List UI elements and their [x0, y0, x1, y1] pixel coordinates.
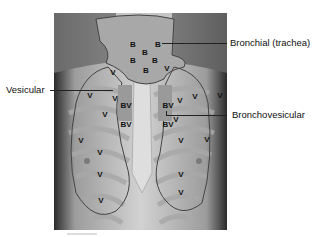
bronchial-label: Bronchial (trachea) [230, 38, 310, 48]
zone-marker-b: B [142, 49, 148, 57]
zone-marker-v: V [164, 65, 169, 73]
zone-marker-b: B [130, 41, 136, 49]
zone-marker-v: V [217, 92, 222, 100]
vesicular-leader-line [50, 90, 113, 91]
zone-marker-v: V [78, 137, 83, 145]
zone-marker-v: V [173, 116, 178, 124]
zone-marker-v: V [110, 69, 115, 77]
vesicular-label: Vesicular [6, 85, 45, 95]
zone-marker-v: V [178, 171, 183, 179]
bronchovesicular-leader-line [166, 115, 227, 116]
zone-marker-v: V [98, 197, 103, 205]
zone-marker-bv: BV [162, 121, 173, 129]
zone-marker-v: V [112, 95, 117, 103]
caption-bar [67, 233, 97, 235]
zone-marker-v: V [178, 137, 183, 145]
zone-marker-bv: BV [120, 121, 131, 129]
zone-marker-v: V [87, 92, 92, 100]
zone-marker-b: B [130, 57, 136, 65]
zone-marker-bv: BV [120, 102, 131, 110]
zone-marker-b: B [152, 57, 158, 65]
bronchovesicular-label: Bronchovesicular [232, 110, 305, 120]
zone-marker-v: V [177, 97, 182, 105]
bronchial-leader-line [162, 43, 227, 44]
zone-marker-v: V [97, 149, 102, 157]
zone-marker-b: B [155, 41, 161, 49]
zone-marker-bv: BV [162, 102, 173, 110]
zone-marker-v: V [204, 136, 209, 144]
zone-marker-v: V [178, 189, 183, 197]
bronchovesicular-leader-tick [166, 111, 167, 116]
zone-marker-v: V [192, 93, 197, 101]
zone-marker-b: B [143, 67, 149, 75]
zone-marker-v: V [97, 171, 102, 179]
zone-marker-v: V [102, 111, 107, 119]
chest-illustration [54, 13, 227, 230]
chest-photo [54, 13, 227, 230]
